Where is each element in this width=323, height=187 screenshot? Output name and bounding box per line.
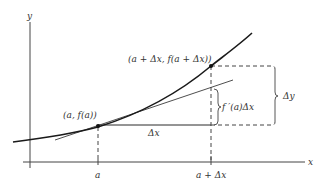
point-label-a: (a, f(a)) bbox=[63, 110, 97, 120]
dy-top-dashed bbox=[211, 66, 275, 69]
y-axis-label: y bbox=[26, 11, 33, 21]
x-axis-label: x bbox=[308, 157, 313, 167]
point-a-plus-dx bbox=[209, 64, 213, 68]
function-curve bbox=[13, 33, 252, 142]
point-label-a-plus-dx: (a + Δx, f(a + Δx)) bbox=[128, 54, 212, 64]
brace-differential bbox=[214, 89, 221, 125]
point-a bbox=[96, 124, 100, 128]
guides bbox=[98, 66, 275, 160]
delta-x-label: Δx bbox=[147, 128, 160, 138]
tick-label-a: a bbox=[95, 170, 100, 180]
delta-y-label: Δy bbox=[282, 91, 295, 101]
differential-label: f ′(a)Δx bbox=[221, 102, 254, 112]
differential-diagram: y x a a + Δx (a, f(a)) (a + Δx, f(a + Δx… bbox=[0, 0, 323, 187]
tick-label-a-plus-dx: a + Δx bbox=[196, 170, 226, 180]
brace-delta-y bbox=[275, 69, 278, 122]
dy-bottom-dashed bbox=[211, 122, 275, 125]
